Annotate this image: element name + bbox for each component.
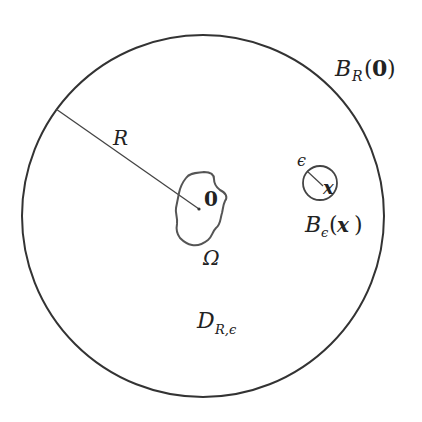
omega-label: Ω [202,246,220,270]
small-ball-label: B ϵ ( x ) [304,212,363,240]
origin-dot [197,207,200,210]
svg-text:R: R [351,68,363,84]
region-label: D R,ϵ [196,308,237,337]
svg-text:x: x [336,213,350,237]
origin-label: 0 [204,187,218,211]
svg-text:ϵ: ϵ [321,225,329,240]
omega-blob [176,172,227,245]
outer-ball-label: B R ( 0 ) [334,55,396,84]
svg-text:D: D [196,308,215,333]
svg-text:B: B [334,56,351,81]
radius-label: R [112,126,128,150]
epsilon-radius-label: ϵ [297,151,306,170]
svg-text:B: B [304,212,321,237]
svg-text:): ) [387,56,396,81]
svg-text:0: 0 [372,55,387,81]
small-radius-line [307,171,323,186]
diagram-canvas: 0 Ω R B R ( 0 ) ϵ x B ϵ ( x ) D R,ϵ [0,0,422,422]
svg-text:): ) [354,212,363,237]
svg-text:R,ϵ: R,ϵ [214,322,237,337]
radius-line [56,109,199,209]
small-ball-center-label: x [322,177,334,198]
